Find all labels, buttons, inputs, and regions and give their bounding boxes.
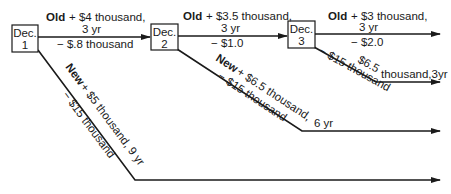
decision-node-1: Dec. 1 bbox=[12, 25, 38, 52]
dec1-old-cost: − $.8 thousand bbox=[57, 38, 133, 50]
node-label: Dec. bbox=[13, 27, 37, 39]
dec1-old-duration: 3 yr bbox=[82, 23, 101, 35]
node-label: Dec. bbox=[153, 26, 177, 38]
dec3-new-gain-duration: thousand,3yr bbox=[381, 68, 448, 80]
node-label: Dec. bbox=[290, 23, 314, 35]
dec1-old-gain: + $4 thousand, bbox=[69, 11, 145, 23]
dec3-old-choice: Old bbox=[328, 10, 347, 22]
dec2-new-choice: New bbox=[214, 52, 240, 75]
node-number: 1 bbox=[22, 39, 28, 51]
dec3-old-cost: − $2.0 bbox=[351, 36, 383, 48]
decision-node-2: Dec. 2 bbox=[151, 24, 178, 50]
decision-tree-diagram: Dec. 1 Dec. 2 Dec. 3 Old + $4 thousand, … bbox=[0, 0, 451, 194]
node-number: 3 bbox=[298, 35, 304, 47]
decision-node-3: Dec. 3 bbox=[288, 21, 315, 48]
dec2-new-duration: 6 yr bbox=[314, 117, 333, 129]
dec2-old-choice: Old bbox=[183, 10, 202, 22]
dec3-old-duration: 3 yr bbox=[359, 21, 378, 33]
dec2-old-duration: 3 yr bbox=[221, 22, 240, 34]
node-number: 2 bbox=[161, 38, 167, 50]
dec1-old-choice: Old bbox=[46, 11, 65, 23]
dec2-old-cost: − $1.0 bbox=[211, 37, 243, 49]
dec2-old-gain: + $3.5 thousand, bbox=[206, 10, 292, 22]
